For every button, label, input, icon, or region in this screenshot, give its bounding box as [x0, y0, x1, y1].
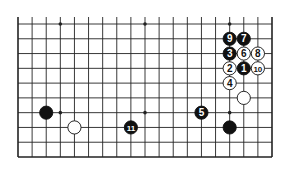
star-point — [228, 111, 232, 115]
black-stone-11: 11 — [124, 121, 137, 134]
white-stone — [68, 121, 81, 134]
black-stone-3: 3 — [223, 47, 236, 60]
black-stone-5: 5 — [195, 106, 208, 119]
star-point — [59, 22, 63, 26]
move-number: 10 — [253, 65, 262, 74]
move-number: 4 — [227, 78, 233, 89]
black-stone — [223, 121, 236, 134]
white-stone-2: 2 — [223, 62, 236, 75]
white-stone — [237, 91, 250, 104]
white-stone-8: 8 — [251, 47, 264, 60]
star-point — [228, 22, 232, 26]
white-stone-6: 6 — [237, 47, 250, 60]
move-number: 5 — [199, 107, 205, 118]
black-stone-1: 1 — [237, 62, 250, 75]
black-stone — [40, 106, 53, 119]
move-number: 9 — [227, 33, 233, 44]
move-number: 1 — [241, 63, 247, 74]
move-number: 11 — [127, 124, 136, 133]
move-number: 6 — [241, 48, 247, 59]
go-board: 1234567891011 — [0, 0, 288, 169]
star-point — [59, 111, 63, 115]
black-stone-9: 9 — [223, 32, 236, 45]
black-stone-7: 7 — [237, 32, 250, 45]
star-point — [143, 111, 147, 115]
move-number: 3 — [227, 48, 233, 59]
white-stone-10: 10 — [251, 62, 264, 75]
move-number: 8 — [255, 48, 261, 59]
move-number: 7 — [241, 33, 247, 44]
star-point — [143, 22, 147, 26]
white-stone-4: 4 — [223, 77, 236, 90]
move-number: 2 — [227, 63, 233, 74]
